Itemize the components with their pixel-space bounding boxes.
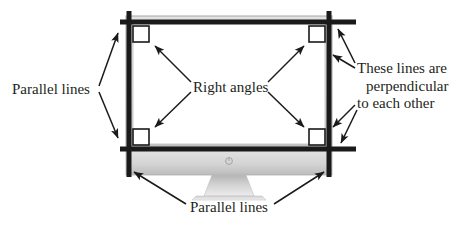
arrow-perpendicular-to-top-horizontal [338,29,355,63]
monitor-chin-bezel [126,150,332,175]
arrow-parallel-left-upper [99,33,118,86]
label-perpendicular-note: These lines are perpendicular to each ot… [357,60,460,113]
label-perpendicular-line-3: to each other [357,95,460,113]
label-perpendicular-line-2: perpendicular [357,78,460,96]
label-right-angles: Right angles [193,79,268,97]
diagram-canvas: Parallel lines Right angles These lines … [0,0,460,225]
arrow-perpendicular-to-bottom-horizontal [341,110,357,143]
arrow-parallel-left-lower [99,92,118,138]
label-parallel-lines-bottom: Parallel lines [190,199,268,217]
right-angle-marker-top-left [133,26,149,42]
monitor-stand-neck [204,175,254,196]
right-angle-marker-bottom-right [309,129,325,145]
monitor-graphic [126,16,332,200]
right-angle-marker-bottom-left [133,129,149,145]
arrow-parallel-bottom-left [134,172,186,204]
label-perpendicular-line-1: These lines are [357,60,447,76]
arrow-parallel-bottom-right [274,172,324,204]
label-parallel-lines-left: Parallel lines [12,81,90,99]
right-angle-marker-top-right [309,26,325,42]
arrow-perpendicular-to-right-vertical-lower [333,105,355,127]
